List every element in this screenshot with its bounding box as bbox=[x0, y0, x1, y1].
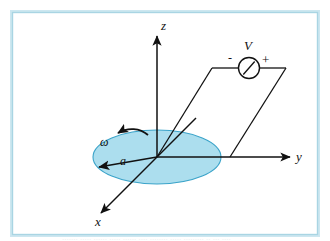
voltage-plus-terminal-label: + bbox=[262, 52, 269, 67]
physics-diagram: z y x a ω V - + bbox=[0, 0, 330, 241]
figure-container: z y x a ω V - + ....... ..... ...... ...… bbox=[0, 0, 330, 241]
voltage-minus-terminal-label: - bbox=[228, 51, 232, 65]
z-axis-label: z bbox=[160, 18, 166, 33]
angular-velocity-label: ω bbox=[100, 135, 108, 149]
y-axis-label: y bbox=[294, 149, 302, 164]
x-axis-label: x bbox=[94, 214, 101, 229]
disk-radius-label: a bbox=[120, 154, 126, 168]
figure-background bbox=[0, 0, 330, 241]
